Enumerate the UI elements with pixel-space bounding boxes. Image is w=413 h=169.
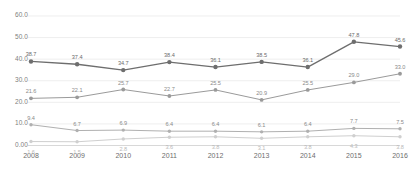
data-label: 9.4 bbox=[19, 115, 43, 121]
data-point[interactable] bbox=[29, 96, 33, 100]
y-axis-tick-label: 60.0 bbox=[0, 11, 28, 18]
data-label: 3.8 bbox=[204, 144, 228, 150]
data-point[interactable] bbox=[398, 127, 401, 130]
data-point[interactable] bbox=[75, 62, 79, 66]
data-label: 6.7 bbox=[65, 121, 89, 127]
data-label: 1.6 bbox=[19, 149, 43, 155]
data-point[interactable] bbox=[306, 135, 309, 138]
data-point[interactable] bbox=[75, 129, 78, 132]
y-axis-tick-label: 30.0 bbox=[0, 76, 28, 83]
data-point[interactable] bbox=[352, 40, 356, 44]
x-axis-tick-label: 2011 bbox=[149, 152, 189, 159]
data-point[interactable] bbox=[29, 123, 32, 126]
x-axis-tick-label: 2010 bbox=[103, 152, 143, 159]
data-point[interactable] bbox=[75, 95, 79, 99]
data-point[interactable] bbox=[121, 88, 125, 92]
data-point[interactable] bbox=[167, 60, 171, 64]
data-point[interactable] bbox=[121, 68, 125, 72]
data-point[interactable] bbox=[352, 127, 355, 130]
data-label: 36.1 bbox=[204, 57, 228, 63]
x-axis-tick-label: 2014 bbox=[288, 152, 328, 159]
y-axis-tick-label: 0.00 bbox=[0, 141, 28, 148]
data-point[interactable] bbox=[260, 130, 263, 133]
data-label: 38.4 bbox=[157, 52, 181, 58]
data-point[interactable] bbox=[398, 72, 402, 76]
data-point[interactable] bbox=[306, 65, 310, 69]
data-point[interactable] bbox=[168, 136, 171, 139]
x-axis-tick-label: 2016 bbox=[380, 152, 413, 159]
data-point[interactable] bbox=[214, 135, 217, 138]
data-label: 1.5 bbox=[65, 149, 89, 155]
data-label: 25.7 bbox=[111, 80, 135, 86]
data-label: 6.9 bbox=[111, 120, 135, 126]
data-point[interactable] bbox=[214, 129, 217, 132]
data-label: 22.7 bbox=[157, 86, 181, 92]
data-point[interactable] bbox=[398, 135, 401, 138]
data-point[interactable] bbox=[75, 140, 78, 143]
data-label: 37.4 bbox=[65, 54, 89, 60]
data-label: 3.8 bbox=[296, 144, 320, 150]
data-label: 38.5 bbox=[250, 52, 274, 58]
data-label: 3.8 bbox=[388, 144, 412, 150]
data-label: 4.3 bbox=[342, 143, 366, 149]
data-label: 29.0 bbox=[342, 72, 366, 78]
data-label: 7.7 bbox=[342, 118, 366, 124]
data-label: 25.5 bbox=[204, 80, 228, 86]
data-label: 3.6 bbox=[157, 144, 181, 150]
x-axis-tick-label: 2015 bbox=[334, 152, 374, 159]
data-point[interactable] bbox=[306, 129, 309, 132]
y-axis-tick-label: 20.0 bbox=[0, 98, 28, 105]
data-point[interactable] bbox=[260, 137, 263, 140]
data-point[interactable] bbox=[398, 44, 402, 48]
data-point[interactable] bbox=[213, 65, 217, 69]
data-label: 2.8 bbox=[111, 146, 135, 152]
data-point[interactable] bbox=[168, 129, 171, 132]
data-point[interactable] bbox=[259, 60, 263, 64]
data-label: 22.1 bbox=[65, 87, 89, 93]
data-point[interactable] bbox=[352, 80, 356, 84]
data-label: 6.1 bbox=[250, 122, 274, 128]
data-label: 34.7 bbox=[111, 60, 135, 66]
y-axis-tick-label: 50.0 bbox=[0, 33, 28, 40]
data-point[interactable] bbox=[214, 88, 218, 92]
data-point[interactable] bbox=[122, 128, 125, 131]
data-label: 6.4 bbox=[157, 121, 181, 127]
data-label: 7.5 bbox=[388, 119, 412, 125]
data-label: 25.5 bbox=[296, 80, 320, 86]
data-point[interactable] bbox=[29, 140, 32, 143]
data-label: 21.6 bbox=[19, 88, 43, 94]
data-point[interactable] bbox=[306, 88, 310, 92]
data-label: 36.1 bbox=[296, 57, 320, 63]
data-label: 3.1 bbox=[250, 145, 274, 151]
data-point[interactable] bbox=[352, 134, 355, 137]
data-label: 45.6 bbox=[388, 37, 412, 43]
data-point[interactable] bbox=[29, 59, 33, 63]
data-point[interactable] bbox=[260, 98, 264, 102]
data-label: 6.4 bbox=[296, 121, 320, 127]
data-label: 47.8 bbox=[342, 32, 366, 38]
data-label: 38.7 bbox=[19, 51, 43, 57]
x-axis-tick-label: 2012 bbox=[196, 152, 236, 159]
data-point[interactable] bbox=[167, 94, 171, 98]
data-point[interactable] bbox=[122, 137, 125, 140]
data-label: 6.4 bbox=[204, 121, 228, 127]
data-label: 20.9 bbox=[250, 90, 274, 96]
x-axis-tick-label: 2013 bbox=[242, 152, 282, 159]
data-label: 33.0 bbox=[388, 64, 412, 70]
